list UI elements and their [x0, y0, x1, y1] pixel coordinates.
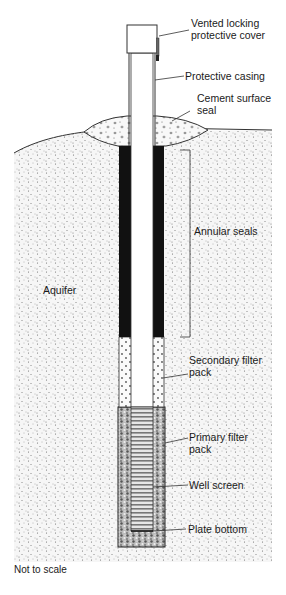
annular-seal-right	[153, 146, 164, 337]
label-annular-seals: Annular seals	[194, 225, 258, 237]
label-primary-filter: Primary filter pack	[189, 431, 248, 455]
label-secondary-filter: Secondary filter pack	[189, 354, 262, 378]
protective-cover	[127, 25, 157, 53]
riser-pipe	[131, 53, 153, 407]
label-plate-bottom: Plate bottom	[188, 523, 247, 535]
label-cover: Vented locking protective cover	[191, 17, 265, 41]
annular-seal-left	[119, 146, 131, 337]
label-well-screen: Well screen	[189, 479, 244, 491]
lock-icon	[157, 38, 160, 56]
well-diagram	[0, 0, 286, 595]
label-aquifer: Aquifer	[43, 284, 76, 296]
well-screen	[131, 407, 153, 531]
note-not-to-scale: Not to scale	[14, 564, 67, 576]
label-casing: Protective casing	[185, 70, 265, 82]
label-cement-seal: Cement surface seal	[197, 92, 271, 116]
